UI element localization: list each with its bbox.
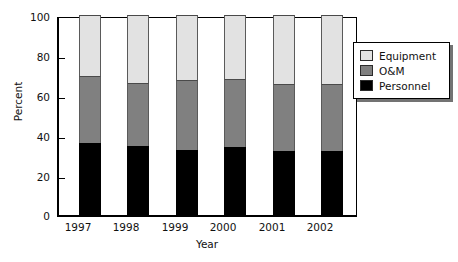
y-tick-label: 100 [20,12,50,23]
y-tick-label: 0 [20,211,50,222]
om-swatch-icon [360,65,373,76]
legend-item-personnel[interactable]: Personnel [360,78,443,93]
segment-om [321,84,343,151]
equipment-swatch-icon [360,50,373,61]
x-tick-label-2001: 2001 [250,221,294,233]
bar-1997[interactable] [79,15,101,215]
x-tick-label-1998: 1998 [104,221,148,233]
x-tick-label-2002: 2002 [298,221,342,233]
legend-item-equipment[interactable]: Equipment [360,48,443,63]
segment-equipment [224,15,246,79]
segment-personnel [79,143,101,215]
bar-1998[interactable] [127,15,149,215]
bar-2001[interactable] [273,15,295,215]
segment-personnel [273,151,295,215]
y-tick-label: 40 [20,132,50,143]
bar-1999[interactable] [176,15,198,215]
legend-item-om[interactable]: O&M [360,63,443,78]
x-axis-title: Year [57,238,357,250]
x-tick-label-2000: 2000 [201,221,245,233]
y-tick-label: 20 [20,172,50,183]
y-tick-mark [59,58,65,59]
segment-equipment [176,15,198,80]
segment-personnel [321,151,343,215]
plot-area [57,17,357,217]
y-tick-label: 60 [20,92,50,103]
personnel-swatch-icon [360,80,373,91]
segment-om [224,79,246,147]
legend-label-equipment: Equipment [379,50,436,62]
segment-om [176,80,198,150]
x-tick-label-1999: 1999 [153,221,197,233]
bar-2000[interactable] [224,15,246,215]
segment-equipment [321,15,343,84]
segment-personnel [176,150,198,215]
y-tick-mark [59,138,65,139]
bar-2002[interactable] [321,15,343,215]
legend: Equipment O&M Personnel [353,42,450,99]
y-tick-mark [59,178,65,179]
stacked-bar-chart: 100 80 60 40 20 0 Percent [0,0,458,262]
segment-personnel [127,146,149,215]
y-tick-label: 80 [20,52,50,63]
y-tick-mark [59,98,65,99]
x-tick-label-1997: 1997 [56,221,100,233]
segment-equipment [273,15,295,84]
segment-equipment [79,15,101,76]
y-axis-title: Percent [13,62,24,142]
segment-om [127,83,149,146]
segment-om [273,84,295,151]
legend-label-personnel: Personnel [379,80,430,92]
segment-equipment [127,15,149,83]
legend-label-om: O&M [379,65,405,77]
segment-om [79,76,101,143]
segment-personnel [224,147,246,215]
